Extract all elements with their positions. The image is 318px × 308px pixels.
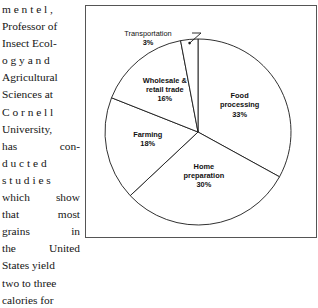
article-line: Sciences at xyxy=(2,86,80,103)
article-word: United xyxy=(49,240,80,257)
article-line: s t u d i e s xyxy=(2,172,80,189)
article-line: o g y a n d xyxy=(2,52,80,69)
article-line: m e n t e l , xyxy=(2,1,80,18)
chart-frame: Transportation3% Foodprocessing33%Homepr… xyxy=(85,5,317,238)
article-line: Insect Ecol- xyxy=(2,35,80,52)
article-line: grainsin xyxy=(2,223,80,240)
article-word: which xyxy=(2,189,30,206)
article-line: two to three xyxy=(2,275,80,292)
article-line: d u c t e d xyxy=(2,155,80,172)
callout-dot xyxy=(188,42,191,45)
article-word: the xyxy=(2,240,16,257)
article-line: thatmost xyxy=(2,206,80,223)
article-word: most xyxy=(58,206,80,223)
article-word: grains xyxy=(2,223,30,240)
callout-label: Transportation3% xyxy=(124,29,171,47)
article-word: in xyxy=(71,223,80,240)
pie-chart: Transportation3% Foodprocessing33%Homepr… xyxy=(86,6,318,239)
article-word: show xyxy=(56,189,80,206)
article-line: calories for xyxy=(2,292,80,308)
article-line: University, xyxy=(2,121,80,138)
article-line: theUnited xyxy=(2,240,80,257)
article-word: has xyxy=(2,138,17,155)
article-line: C o r n e l l xyxy=(2,104,80,121)
article-text-column: m e n t e l ,Professor ofInsect Ecol-o g… xyxy=(2,1,80,257)
article-line: Professor of xyxy=(2,18,80,35)
article-line: whichshow xyxy=(2,189,80,206)
article-line: Agricultural xyxy=(2,69,80,86)
article-word: that xyxy=(2,206,19,223)
article-line: States yield xyxy=(2,257,80,274)
article-word: con- xyxy=(60,138,80,155)
article-line: hascon- xyxy=(2,138,80,155)
